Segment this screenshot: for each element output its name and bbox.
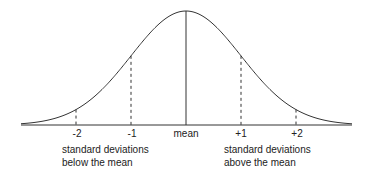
caption-below-mean: standard deviations below the mean bbox=[62, 143, 149, 169]
tick-plus-2: +2 bbox=[291, 128, 302, 140]
caption-above-line1: standard deviations bbox=[224, 143, 311, 156]
tick-minus-1: -1 bbox=[128, 128, 137, 140]
caption-below-line2: below the mean bbox=[62, 156, 149, 169]
caption-below-line1: standard deviations bbox=[62, 143, 149, 156]
caption-above-line2: above the mean bbox=[224, 156, 311, 169]
tick-plus-1: +1 bbox=[235, 128, 246, 140]
tick-mean: mean bbox=[173, 128, 198, 140]
bell-curve-diagram bbox=[0, 0, 374, 178]
caption-above-mean: standard deviations above the mean bbox=[224, 143, 311, 169]
tick-minus-2: -2 bbox=[73, 128, 82, 140]
